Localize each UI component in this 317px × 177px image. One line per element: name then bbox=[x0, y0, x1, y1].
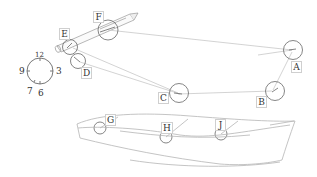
label-F: F bbox=[93, 11, 104, 23]
clock-7: 7 bbox=[27, 87, 33, 96]
circle-A bbox=[284, 41, 303, 60]
circle-C bbox=[170, 84, 189, 103]
label-J: J bbox=[215, 119, 226, 131]
clock-3: 3 bbox=[56, 67, 62, 76]
clock-face bbox=[27, 58, 53, 84]
label-A: A bbox=[291, 61, 302, 73]
clock-12: 12 bbox=[35, 51, 44, 60]
label-G: G bbox=[105, 114, 116, 126]
label-B: B bbox=[256, 96, 267, 108]
label-D: D bbox=[81, 67, 92, 79]
label-E: E bbox=[59, 28, 70, 40]
clock-6: 6 bbox=[38, 89, 44, 98]
label-C: C bbox=[158, 92, 169, 104]
label-H: H bbox=[161, 122, 173, 134]
clock-9: 9 bbox=[19, 67, 25, 76]
sketch-canvas bbox=[0, 0, 317, 177]
